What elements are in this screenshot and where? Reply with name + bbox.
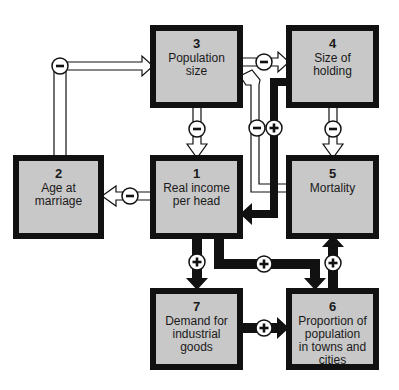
node-7-demand-for-industrial-goods: 7 Demand for industrial goods [150,288,243,370]
plus-sign-icon [189,254,205,270]
minus-sign-icon [325,121,341,137]
edge-3-to-4 [240,52,289,72]
edge-2-to-3 [52,56,153,158]
node-number: 5 [292,167,373,180]
node-label: Mortality [292,182,373,195]
minus-sign-icon [189,121,205,137]
node-number: 1 [156,167,237,180]
node-label: Age at marriage [19,182,98,208]
node-number: 2 [19,167,98,180]
node-label: Real income per head [156,182,237,208]
edge-4-to-5 [323,105,343,158]
node-number: 6 [292,300,373,313]
node-label: Population size [156,52,237,78]
plus-sign-icon [256,256,272,272]
node-number: 3 [156,37,237,50]
plus-sign-icon [266,120,282,136]
plus-sign-icon [325,255,341,271]
minus-sign-icon [256,54,272,70]
node-4-size-of-holding: 4 Size of holding [286,25,379,108]
node-label: Demand for industrial goods [156,315,237,354]
node-3-population-size: 3 Population size [150,25,243,108]
minus-sign-icon [52,58,68,74]
node-5-mortality: 5 Mortality [286,155,379,239]
edge-6-to-5 [322,235,344,290]
edge-1-to-7 [186,235,208,290]
node-6-proportion-in-towns: 6 Proportion of population in towns and … [286,288,379,370]
node-number: 7 [156,300,237,313]
node-number: 4 [292,37,373,50]
plus-sign-icon [256,320,272,336]
edge-3-to-1 [187,105,207,158]
minus-sign-icon [249,120,265,136]
edge-1-to-2 [102,186,153,206]
minus-sign-icon [122,188,138,204]
edge-7-to-6 [240,317,289,339]
edge-4-to-1 [240,78,289,225]
node-label: Size of holding [292,52,373,78]
node-label: Proportion of population in towns and ci… [292,315,373,367]
node-2-age-at-marriage: 2 Age at marriage [13,155,104,239]
node-1-real-income-per-head: 1 Real income per head [150,155,243,239]
edge-1-to-6 [214,235,326,290]
